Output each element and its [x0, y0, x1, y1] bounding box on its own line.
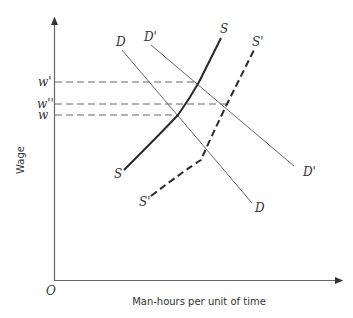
label-s-prime-top: S' [252, 35, 264, 49]
label-d-prime-top: D' [143, 30, 157, 44]
x-axis-title: Man-hours per unit of time [132, 296, 266, 307]
label-s-bottom: S [114, 167, 122, 181]
label-s-top: S [220, 22, 228, 36]
origin-label: O [46, 284, 56, 298]
label-w-prime: w' [38, 75, 52, 89]
label-w: w [38, 108, 49, 122]
label-d-prime-bottom: D' [302, 165, 316, 179]
label-d-bottom: D [254, 201, 265, 215]
label-d-top: D [115, 35, 126, 49]
labor-market-diagram: D D' S S' S S' D D' w' w'' w O Wage Man-… [0, 0, 353, 318]
y-axis-title: Wage [15, 146, 26, 174]
supply-curve-s-prime [151, 50, 254, 196]
label-s-prime-bottom: S' [139, 195, 151, 209]
demand-curve-d-prime [151, 45, 294, 166]
demand-curve-d [122, 50, 252, 203]
